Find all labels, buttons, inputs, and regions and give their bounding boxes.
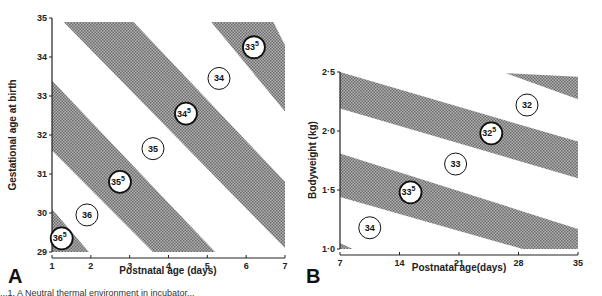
svg-text:36: 36 bbox=[82, 210, 92, 220]
y-tick-label: 1·5 bbox=[322, 185, 335, 195]
band-label-35: 35 bbox=[142, 138, 164, 160]
x-tick-label: 28 bbox=[513, 258, 523, 268]
y-axis-label: Gestational age at birth bbox=[7, 79, 18, 190]
band-label-34: 34 bbox=[359, 217, 381, 239]
figure: 293031323334351234567Postnatal age (days… bbox=[0, 0, 602, 296]
y-tick-label: 2·0 bbox=[322, 126, 335, 136]
x-tick-label: 14 bbox=[394, 258, 404, 268]
band-label-32: 32 bbox=[516, 94, 538, 116]
chart-b: 1·01·52·02·5714212835Postnatal age(days)… bbox=[306, 67, 583, 287]
band-label-33: 33 bbox=[445, 153, 467, 175]
shaded-band bbox=[340, 243, 353, 249]
svg-text:33: 33 bbox=[451, 159, 461, 169]
band-label-36-5: 365 bbox=[51, 227, 73, 249]
y-tick-label: 2·5 bbox=[322, 67, 335, 77]
y-tick-label: 32 bbox=[37, 130, 47, 140]
y-axis-label: Bodyweight (kg) bbox=[307, 121, 318, 199]
y-tick-label: 30 bbox=[37, 208, 47, 218]
band-label-34: 34 bbox=[208, 67, 230, 89]
shaded-band bbox=[506, 73, 578, 99]
x-tick-label: 6 bbox=[244, 261, 249, 271]
panel-label: B bbox=[306, 265, 320, 287]
svg-text:32: 32 bbox=[522, 100, 532, 110]
svg-text:34: 34 bbox=[214, 73, 224, 83]
panel-label: A bbox=[8, 265, 22, 287]
band-label-32-5: 325 bbox=[480, 122, 502, 144]
x-tick-label: 7 bbox=[337, 258, 342, 268]
y-tick-label: 35 bbox=[37, 13, 47, 23]
band-label-34-5: 345 bbox=[175, 103, 197, 125]
y-tick-label: 29 bbox=[37, 247, 47, 257]
shaded-band bbox=[211, 22, 285, 112]
figure-caption: ...1. A Neutral thermal environment in i… bbox=[0, 288, 195, 296]
band-label-35-5: 355 bbox=[109, 171, 131, 193]
x-axis-label: Postnatal age (days) bbox=[119, 265, 216, 276]
y-tick-label: 1·0 bbox=[322, 244, 335, 254]
x-tick-label: 1 bbox=[49, 261, 54, 271]
x-tick-label: 7 bbox=[282, 261, 287, 271]
x-axis-label: Postnatal age(days) bbox=[412, 262, 506, 273]
x-tick-label: 2 bbox=[88, 261, 93, 271]
chart-a: 293031323334351234567Postnatal age (days… bbox=[7, 13, 288, 287]
y-tick-label: 33 bbox=[37, 91, 47, 101]
svg-text:34: 34 bbox=[365, 223, 375, 233]
y-tick-label: 31 bbox=[37, 169, 47, 179]
y-tick-label: 34 bbox=[37, 52, 47, 62]
x-tick-label: 35 bbox=[573, 258, 583, 268]
band-label-33-5: 335 bbox=[243, 36, 265, 58]
band-label-36: 36 bbox=[76, 204, 98, 226]
band-label-33-5: 335 bbox=[400, 181, 422, 203]
svg-text:35: 35 bbox=[148, 144, 158, 154]
